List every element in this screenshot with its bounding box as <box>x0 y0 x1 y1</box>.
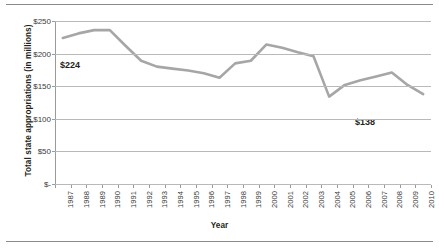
y-axis-title: Total state appropriations (in millions) <box>24 11 33 191</box>
x-tick-mark <box>368 185 369 188</box>
x-tick-label: 1992 <box>145 191 154 208</box>
x-tick-mark <box>431 185 432 188</box>
x-tick-label: 1989 <box>98 191 107 208</box>
x-tick-mark <box>71 185 72 188</box>
x-tick-label: 1995 <box>192 191 201 208</box>
y-tick-label: $250 <box>33 17 51 26</box>
x-tick-mark <box>384 185 385 188</box>
x-tick-label: 1990 <box>113 191 122 208</box>
y-tick-label: $100 <box>33 114 51 123</box>
x-tick-label: 1993 <box>160 191 169 208</box>
x-tick-mark <box>133 185 134 188</box>
x-tick-label: 1991 <box>129 191 138 208</box>
x-tick-mark <box>118 185 119 188</box>
x-tick-label: 2005 <box>348 191 357 208</box>
x-tick-label: 2009 <box>411 191 420 208</box>
x-tick-mark <box>243 185 244 188</box>
y-tick-label: $150 <box>33 82 51 91</box>
x-tick-mark <box>212 185 213 188</box>
x-tick-label: 1988 <box>82 191 91 208</box>
y-tick-mark <box>52 151 55 152</box>
gridline <box>55 54 431 55</box>
y-tick-mark <box>52 86 55 87</box>
x-tick-mark <box>102 185 103 188</box>
x-tick-label: 2002 <box>301 191 310 208</box>
x-tick-mark <box>55 185 56 188</box>
x-tick-label: 2007 <box>380 191 389 208</box>
x-tick-mark <box>415 185 416 188</box>
x-tick-mark <box>86 185 87 188</box>
chart-figure: Total state appropriations (in millions)… <box>0 0 439 248</box>
x-tick-mark <box>400 185 401 188</box>
x-tick-mark <box>180 185 181 188</box>
x-tick-label: 1999 <box>254 191 263 208</box>
x-tick-label: 1996 <box>207 191 216 208</box>
figure-bottom-rule <box>6 241 433 242</box>
y-tick-label: $50 <box>38 147 51 156</box>
gridline <box>55 21 431 22</box>
x-tick-label: 1987 <box>66 191 75 208</box>
x-tick-label: 2008 <box>395 191 404 208</box>
x-tick-label: 1997 <box>223 191 232 208</box>
x-tick-mark <box>149 185 150 188</box>
x-tick-mark <box>353 185 354 188</box>
y-tick-mark <box>52 21 55 22</box>
y-tick-label: $- <box>44 180 51 189</box>
x-tick-label: 2000 <box>270 191 279 208</box>
x-tick-mark <box>227 185 228 188</box>
x-tick-mark <box>196 185 197 188</box>
x-tick-label: 1994 <box>176 191 185 208</box>
figure-top-rule <box>6 4 433 5</box>
x-tick-mark <box>306 185 307 188</box>
x-tick-label: 2001 <box>286 191 295 208</box>
x-tick-mark <box>290 185 291 188</box>
x-tick-mark <box>321 185 322 188</box>
x-tick-label: 2003 <box>317 191 326 208</box>
x-tick-mark <box>274 185 275 188</box>
x-tick-label: 2006 <box>364 191 373 208</box>
y-tick-mark <box>52 119 55 120</box>
x-tick-mark <box>165 185 166 188</box>
series-line <box>55 21 431 185</box>
data-label-start: $224 <box>60 60 80 70</box>
x-tick-label: 1998 <box>239 191 248 208</box>
x-tick-mark <box>259 185 260 188</box>
x-tick-label: 2010 <box>427 191 436 208</box>
plot-area: $224 $138 $250$200$150$100$50$-198719881… <box>55 21 431 184</box>
gridline <box>55 86 431 87</box>
gridline <box>55 151 431 152</box>
x-axis-title: Year <box>0 221 439 230</box>
gridline <box>55 119 431 120</box>
y-tick-label: $200 <box>33 49 51 58</box>
x-tick-mark <box>337 185 338 188</box>
y-tick-mark <box>52 54 55 55</box>
x-tick-label: 2004 <box>333 191 342 208</box>
